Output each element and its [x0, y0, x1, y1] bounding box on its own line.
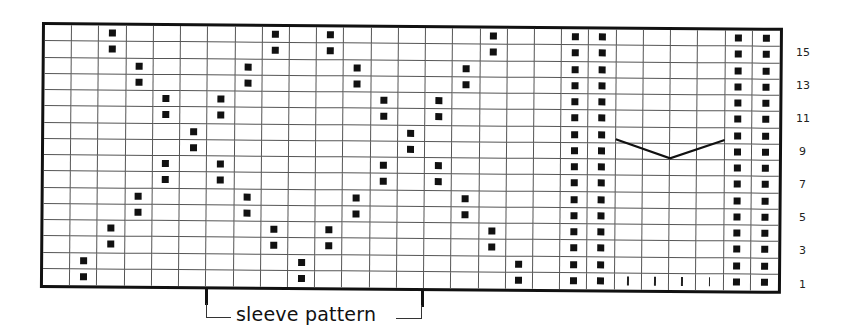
chart-cell — [235, 59, 262, 75]
purl-dot-icon — [571, 163, 578, 170]
chart-cell — [480, 77, 507, 93]
chart-cell — [588, 159, 615, 175]
chart-cell — [343, 206, 370, 222]
row-label-13: 13 — [796, 80, 816, 92]
purl-dot-icon — [462, 81, 469, 88]
chart-cell — [343, 239, 370, 255]
chart-cell — [453, 44, 480, 60]
chart-cell — [479, 223, 506, 239]
chart-cell — [290, 27, 317, 43]
chart-cell — [43, 236, 70, 252]
chart-cell — [317, 76, 344, 92]
chart-cell — [560, 273, 587, 289]
chart-cell — [43, 253, 70, 269]
purl-dot-icon — [762, 165, 769, 172]
chart-cell — [153, 75, 180, 91]
chart-cell — [751, 209, 778, 225]
chart-cell — [344, 44, 371, 60]
purl-dot-icon — [488, 244, 495, 251]
chart-cell — [71, 123, 98, 139]
chart-cell — [426, 77, 453, 93]
chart-cell — [234, 222, 261, 238]
chart-cell — [44, 106, 71, 122]
chart-cell — [723, 274, 750, 290]
chart-cell — [70, 236, 97, 252]
chart-cell — [643, 78, 670, 94]
purl-dot-icon — [190, 128, 197, 135]
chart-cell — [725, 47, 752, 63]
knitting-chart — [40, 22, 783, 294]
chart-cell — [644, 46, 671, 62]
purl-dot-icon — [761, 279, 768, 286]
chart-cell — [724, 242, 751, 258]
chart-cell — [206, 254, 233, 270]
sleeve-pattern-label: sleeve pattern — [236, 303, 376, 325]
chart-cell — [752, 47, 779, 63]
purl-dot-icon — [570, 196, 577, 203]
chart-cell — [71, 155, 98, 171]
chart-cell — [533, 256, 560, 272]
chart-cell — [615, 225, 642, 241]
row-label-9: 9 — [799, 146, 819, 158]
chart-cell — [235, 75, 262, 91]
chart-cell — [70, 269, 97, 285]
chart-cell — [425, 207, 452, 223]
chart-cell — [534, 159, 561, 175]
chart-cell — [152, 270, 179, 286]
chart-cell — [642, 257, 669, 273]
chart-cell — [153, 156, 180, 172]
purl-dot-icon — [162, 176, 169, 183]
purl-dot-icon — [298, 259, 305, 266]
chart-cell — [425, 126, 452, 142]
chart-cell — [343, 174, 370, 190]
purl-dot-icon — [735, 35, 742, 42]
chart-cell — [561, 127, 588, 143]
chart-cell — [616, 143, 643, 159]
chart-cell — [399, 44, 426, 60]
chart-cell — [533, 208, 560, 224]
chart-cell — [181, 75, 208, 91]
chart-cell — [453, 109, 480, 125]
purl-dot-icon — [136, 62, 143, 69]
chart-cell — [153, 91, 180, 107]
chart-cell — [207, 156, 234, 172]
chart-cell — [697, 144, 724, 160]
chart-cell — [207, 238, 234, 254]
chart-cell — [671, 62, 698, 78]
chart-cell — [479, 240, 506, 256]
chart-cell — [453, 28, 480, 44]
chart-cell — [125, 253, 152, 269]
chart-cell — [398, 125, 425, 141]
chart-cell — [261, 238, 288, 254]
chart-cell — [751, 226, 778, 242]
chart-cell — [724, 225, 751, 241]
purl-dot-icon — [217, 112, 224, 119]
chart-cell — [698, 63, 725, 79]
chart-cell — [697, 209, 724, 225]
chart-cell — [506, 207, 533, 223]
chart-cell — [344, 92, 371, 108]
purl-dot-icon — [109, 46, 116, 53]
chart-cell — [562, 45, 589, 61]
purl-dot-icon — [135, 209, 142, 216]
chart-cell — [453, 61, 480, 77]
purl-dot-icon — [570, 278, 577, 285]
chart-cell — [44, 171, 71, 187]
chart-cell — [43, 220, 70, 236]
chart-cell — [452, 239, 479, 255]
chart-cell — [180, 91, 207, 107]
purl-dot-icon — [571, 98, 578, 105]
chart-cell — [696, 274, 723, 290]
purl-dot-icon — [461, 211, 468, 218]
chart-cell — [317, 60, 344, 76]
chart-cell — [316, 125, 343, 141]
chart-cell — [725, 79, 752, 95]
chart-cell — [479, 158, 506, 174]
chart-cell — [43, 204, 70, 220]
chart-cell — [398, 142, 425, 158]
chart-cell — [451, 256, 478, 272]
chart-cell — [560, 240, 587, 256]
chart-cell — [179, 270, 206, 286]
row-label-5: 5 — [799, 212, 819, 224]
chart-cell — [72, 58, 99, 74]
